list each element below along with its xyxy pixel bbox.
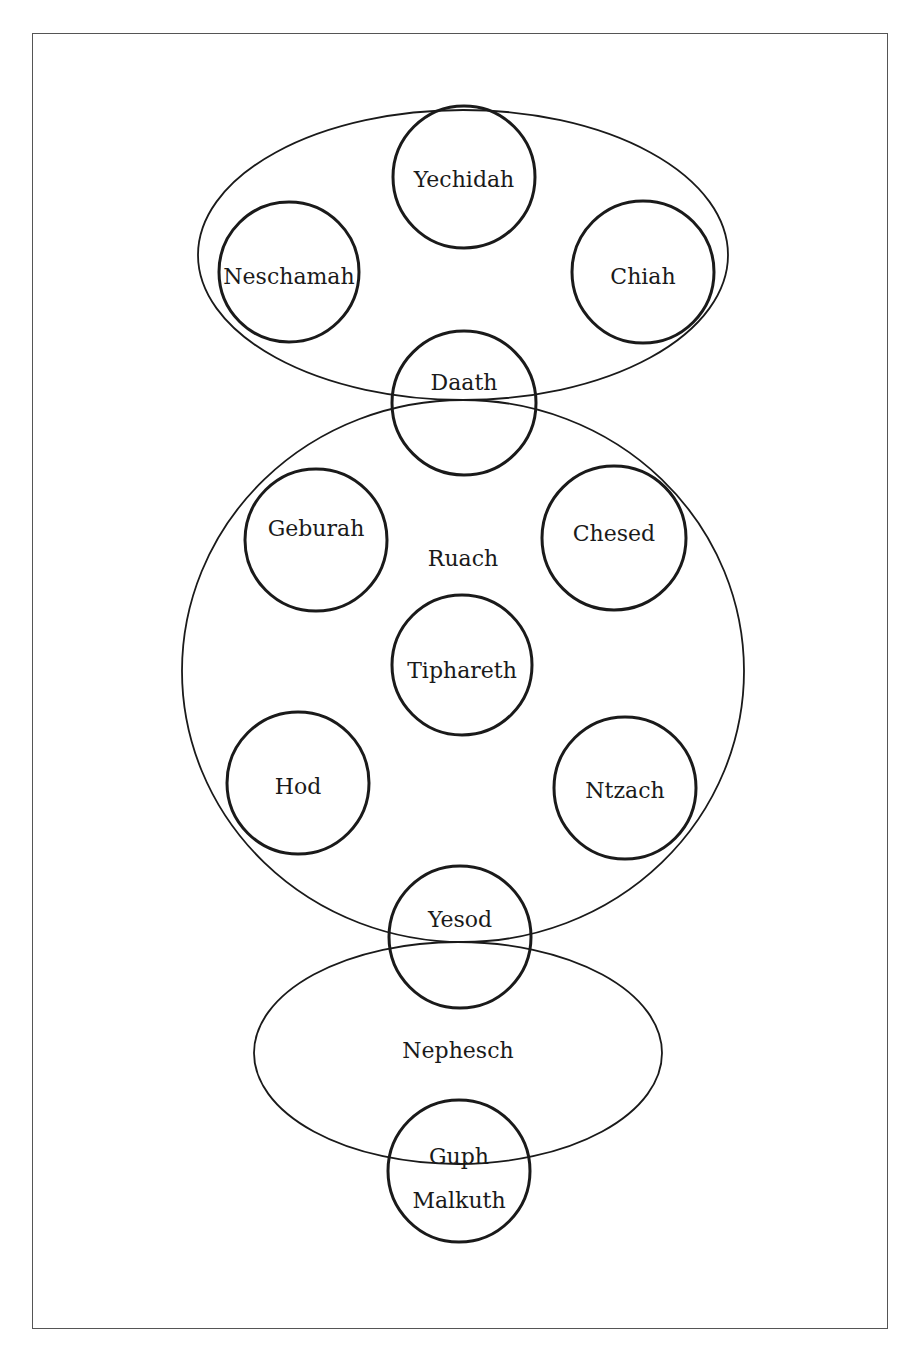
sephirah-malkuth-label: Malkuth xyxy=(412,1188,505,1213)
sephirah-chiah-label: Chiah xyxy=(610,264,675,289)
group-upper-outline xyxy=(198,110,728,400)
sephirah-yechidah-label: Yechidah xyxy=(413,167,515,192)
sephirah-chiah: Chiah xyxy=(572,201,714,343)
sephirah-yesod-label: Yesod xyxy=(427,907,492,932)
sephirah-ntzach: Ntzach xyxy=(554,717,696,859)
sephirah-malkuth-sublabel: Guph xyxy=(429,1144,489,1169)
sephirah-geburah-label: Geburah xyxy=(268,516,365,541)
sephirah-yechidah: Yechidah xyxy=(393,106,535,248)
sephirah-daath-circle xyxy=(392,331,536,475)
diagram-canvas: RuachNepheschYechidahNeschamahChiahDaath… xyxy=(0,0,915,1351)
soul-sephiroth-diagram: RuachNepheschYechidahNeschamahChiahDaath… xyxy=(0,0,915,1351)
group-ruach-label: Ruach xyxy=(428,546,498,571)
sephirah-tiphareth-label: Tiphareth xyxy=(407,658,517,683)
sephirah-neschamah: Neschamah xyxy=(219,202,359,342)
sephirah-neschamah-label: Neschamah xyxy=(223,264,354,289)
sephirah-malkuth-circle xyxy=(388,1100,530,1242)
sephirah-tiphareth: Tiphareth xyxy=(392,595,532,735)
sephirah-malkuth: MalkuthGuph xyxy=(388,1100,530,1242)
group-nephesch-label: Nephesch xyxy=(402,1038,513,1063)
sephirah-chesed-label: Chesed xyxy=(573,521,655,546)
sephirah-ntzach-label: Ntzach xyxy=(585,778,664,803)
sephirah-daath-label: Daath xyxy=(431,370,498,395)
sephirah-daath: Daath xyxy=(392,331,536,475)
sephirah-chesed: Chesed xyxy=(542,466,686,610)
sephirah-geburah: Geburah xyxy=(245,469,387,611)
sephirah-hod-label: Hod xyxy=(275,774,322,799)
sephirah-hod: Hod xyxy=(227,712,369,854)
